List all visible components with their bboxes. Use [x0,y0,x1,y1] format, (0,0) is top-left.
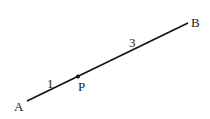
label-a: A [14,99,24,114]
label-ratio-pb: 3 [129,35,136,50]
diagram-canvas: A P B 1 3 [0,0,210,119]
label-ratio-ap: 1 [47,76,54,91]
label-b: B [191,15,200,30]
point-p-dot [76,75,80,79]
label-p: P [78,79,85,94]
